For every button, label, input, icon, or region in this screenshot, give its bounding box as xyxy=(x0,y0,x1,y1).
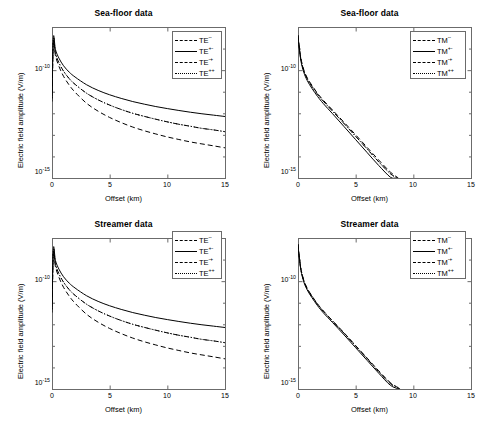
legend-line-swatch-dashed xyxy=(175,258,197,266)
legend-line-swatch-solid xyxy=(413,247,435,255)
legend-item: TM++ xyxy=(413,67,462,78)
legend-item: TE-+ xyxy=(175,256,218,267)
legend-label: TE+- xyxy=(197,45,213,56)
legend-item: TE++ xyxy=(175,67,218,78)
legend-line-swatch-dotted xyxy=(413,69,435,77)
legend-item: TE-- xyxy=(175,34,218,45)
legend-line-swatch-dotted xyxy=(175,69,197,77)
legend-item: TM-- xyxy=(413,34,462,45)
legend-label: TE-+ xyxy=(197,56,213,67)
subplot-bottom-left: Streamer data Electric field amplitude (… xyxy=(0,211,247,423)
legend-label: TM-- xyxy=(435,34,451,45)
legend-label: TM+- xyxy=(435,45,452,56)
legend-item: TE+- xyxy=(175,245,218,256)
legend-line-swatch-dashed xyxy=(413,58,435,66)
legend-label: TE++ xyxy=(197,67,214,78)
legend-line-swatch-solid xyxy=(413,47,435,55)
legend-label: TE-+ xyxy=(197,256,213,267)
legend-item: TE-- xyxy=(175,234,218,245)
legend-label: TM-- xyxy=(435,234,451,245)
subplot-top-left: Sea-floor data Electric field amplitude … xyxy=(0,0,247,212)
legend-line-swatch-solid xyxy=(175,247,197,255)
legend-line-swatch-dashdot xyxy=(413,236,435,244)
subplot-bottom-right: Streamer data Electric field amplitude (… xyxy=(246,211,493,423)
legend-item: TM-- xyxy=(413,234,462,245)
legend-line-swatch-dotted xyxy=(413,269,435,277)
legend[interactable]: TE--TE+-TE-+TE++ xyxy=(172,231,222,279)
figure-canvas: Sea-floor data Electric field amplitude … xyxy=(0,0,493,424)
legend-line-swatch-dashed xyxy=(413,258,435,266)
legend-line-swatch-dashdot xyxy=(413,36,435,44)
legend-label: TE+- xyxy=(197,245,213,256)
legend[interactable]: TE--TE+-TE-+TE++ xyxy=(172,31,222,79)
legend-item: TE++ xyxy=(175,267,218,278)
legend-line-swatch-dashed xyxy=(175,58,197,66)
legend-item: TM+- xyxy=(413,45,462,56)
legend-label: TE-- xyxy=(197,34,212,45)
legend-label: TE++ xyxy=(197,267,214,278)
legend-item: TM++ xyxy=(413,267,462,278)
legend-label: TM-+ xyxy=(435,256,452,267)
legend-label: TM+- xyxy=(435,245,452,256)
legend-label: TM++ xyxy=(435,67,453,78)
subplot-top-right: Sea-floor data Electric field amplitude … xyxy=(246,0,493,212)
legend-line-swatch-dashdot xyxy=(175,236,197,244)
legend-item: TE+- xyxy=(175,45,218,56)
legend[interactable]: TM--TM+-TM-+TM++ xyxy=(410,31,466,79)
legend-label: TM++ xyxy=(435,267,453,278)
legend-label: TM-+ xyxy=(435,56,452,67)
legend-line-swatch-dotted xyxy=(175,269,197,277)
legend-line-swatch-dashdot xyxy=(175,36,197,44)
legend-item: TM+- xyxy=(413,245,462,256)
legend-item: TM-+ xyxy=(413,256,462,267)
legend-line-swatch-solid xyxy=(175,47,197,55)
legend-label: TE-- xyxy=(197,234,212,245)
legend-item: TM-+ xyxy=(413,56,462,67)
legend-item: TE-+ xyxy=(175,56,218,67)
legend[interactable]: TM--TM+-TM-+TM++ xyxy=(410,231,466,279)
